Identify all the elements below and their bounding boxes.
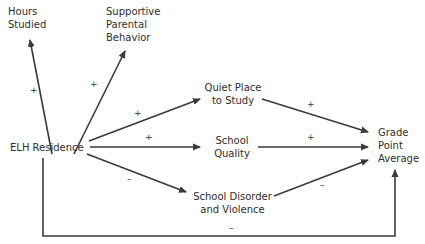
node-hours-studied: Hours Studied: [8, 5, 46, 31]
node-label: Point: [378, 139, 419, 152]
sign-elh-hours: +: [30, 86, 38, 95]
node-label: ELH Residence: [10, 141, 84, 154]
sign-elh-school-disorder: –: [127, 175, 132, 184]
node-label: and Violence: [190, 203, 275, 216]
sign-elh-quiet-place: +: [134, 109, 142, 118]
node-school-quality: School Quality: [207, 134, 257, 160]
node-label: School Disorder: [190, 190, 275, 203]
node-label: School: [207, 134, 257, 147]
arrow-elh-to-hours: [30, 40, 52, 154]
node-school-disorder: School Disorder and Violence: [190, 190, 275, 216]
node-label: Studied: [8, 18, 46, 31]
sign-quiet-place-gpa: +: [307, 100, 315, 109]
node-label: to Study: [203, 94, 263, 107]
node-label: Grade: [378, 126, 419, 139]
sign-elh-parental: +: [90, 80, 98, 89]
node-label: Parental: [106, 18, 160, 31]
node-grade-point-average: Grade Point Average: [378, 126, 419, 165]
node-label: Quiet Place: [203, 81, 263, 94]
node-label: Behavior: [106, 31, 160, 44]
node-label: Average: [378, 152, 419, 165]
node-label: Supportive: [106, 5, 160, 18]
sign-school-disorder-gpa: –: [320, 181, 325, 190]
arrow-quiet-place-to-gpa: [262, 99, 368, 132]
node-label: Quality: [207, 147, 257, 160]
path-diagram: Hours Studied Supportive Parental Behavi…: [0, 0, 425, 244]
arrow-school-disorder-to-gpa: [274, 160, 368, 196]
arrow-elh-to-parental: [74, 51, 125, 154]
node-quiet-place: Quiet Place to Study: [203, 81, 263, 107]
node-supportive-parental-behavior: Supportive Parental Behavior: [106, 5, 160, 44]
sign-elh-school-quality: +: [145, 133, 153, 142]
node-elh-residence: ELH Residence: [10, 141, 84, 154]
sign-school-quality-gpa: +: [307, 133, 315, 142]
node-label: Hours: [8, 5, 46, 18]
sign-elh-gpa-direct: –: [229, 224, 234, 233]
arrow-elh-to-school-disorder: [87, 154, 186, 192]
